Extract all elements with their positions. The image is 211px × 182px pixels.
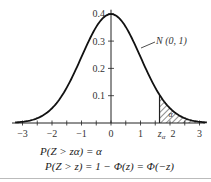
divider <box>0 178 211 179</box>
x-tick-label: −1 <box>76 128 87 139</box>
z-alpha-label: zα <box>157 128 166 141</box>
y-tick-label: 0.1 <box>93 90 106 101</box>
tail-area-alpha <box>160 95 200 123</box>
y-tick-label: 0.4 <box>93 8 106 19</box>
curve-label: N (0, 1) <box>155 35 188 47</box>
x-tick-label: −2 <box>47 128 58 139</box>
x-tick-label: 3 <box>197 128 202 139</box>
formula-cdf-relation: P(Z > z) = 1 − Φ(z) = Φ(−z) <box>45 160 174 172</box>
x-tick-label: 1 <box>138 128 143 139</box>
x-tick-label: −3 <box>17 128 28 139</box>
curve-label-leader <box>141 42 155 48</box>
formula-tail-alpha: P(Z > zα) = α <box>40 145 102 157</box>
normal-curve-chart: −3−2−101230.10.20.30.4zααN (0, 1) <box>0 0 211 182</box>
hatched-tail-region <box>160 95 200 123</box>
y-tick-label: 0.3 <box>93 36 106 47</box>
axes <box>12 10 205 126</box>
y-tick-label: 0.2 <box>93 63 106 74</box>
x-tick-label: 0 <box>109 128 114 139</box>
normal-distribution-figure: −3−2−101230.10.20.30.4zααN (0, 1) P(Z > … <box>0 0 211 182</box>
x-tick-label: 2 <box>171 128 176 139</box>
